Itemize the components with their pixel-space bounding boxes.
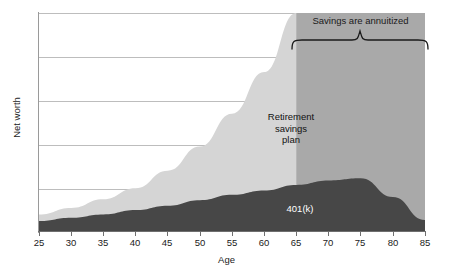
x-tick-75 xyxy=(360,232,361,236)
x-tick-85 xyxy=(425,232,426,236)
x-tick-25 xyxy=(39,232,40,236)
x-tick-50 xyxy=(200,232,201,236)
x-tick-label-25: 25 xyxy=(34,237,45,248)
x-tick-label-55: 55 xyxy=(227,237,238,248)
x-tick-60 xyxy=(264,232,265,236)
x-tick-55 xyxy=(232,232,233,236)
x-tick-label-45: 45 xyxy=(162,237,173,248)
y-axis-title: Net worth xyxy=(11,83,22,153)
x-tick-70 xyxy=(328,232,329,236)
x-tick-40 xyxy=(135,232,136,236)
k401-label: 401(k) xyxy=(255,203,345,214)
x-tick-label-75: 75 xyxy=(355,237,366,248)
x-tick-30 xyxy=(71,232,72,236)
annuitized-label: Savings are annuitized xyxy=(288,15,433,26)
x-tick-45 xyxy=(167,232,168,236)
x-tick-80 xyxy=(393,232,394,236)
x-tick-label-80: 80 xyxy=(388,237,399,248)
x-tick-label-50: 50 xyxy=(195,237,206,248)
x-tick-label-85: 85 xyxy=(420,237,431,248)
x-tick-65 xyxy=(296,232,297,236)
x-tick-label-65: 65 xyxy=(291,237,302,248)
x-tick-label-60: 60 xyxy=(259,237,270,248)
retirement-savings-plan-label: Retirement savings plan xyxy=(258,111,324,146)
x-tick-label-70: 70 xyxy=(323,237,334,248)
chart-root: 25 30 35 40 45 50 55 60 65 70 75 80 85 A… xyxy=(0,0,453,280)
retirement-plan-line-1: Retirement xyxy=(258,111,324,123)
annuitized-brace-icon xyxy=(290,28,430,50)
x-tick-35 xyxy=(103,232,104,236)
x-tick-label-30: 30 xyxy=(66,237,77,248)
y-axis-line xyxy=(38,12,39,233)
x-axis-title: Age xyxy=(0,254,453,265)
x-tick-label-35: 35 xyxy=(98,237,109,248)
x-tick-label-40: 40 xyxy=(130,237,141,248)
retirement-plan-line-2: savings xyxy=(258,123,324,135)
retirement-plan-line-3: plan xyxy=(258,134,324,146)
